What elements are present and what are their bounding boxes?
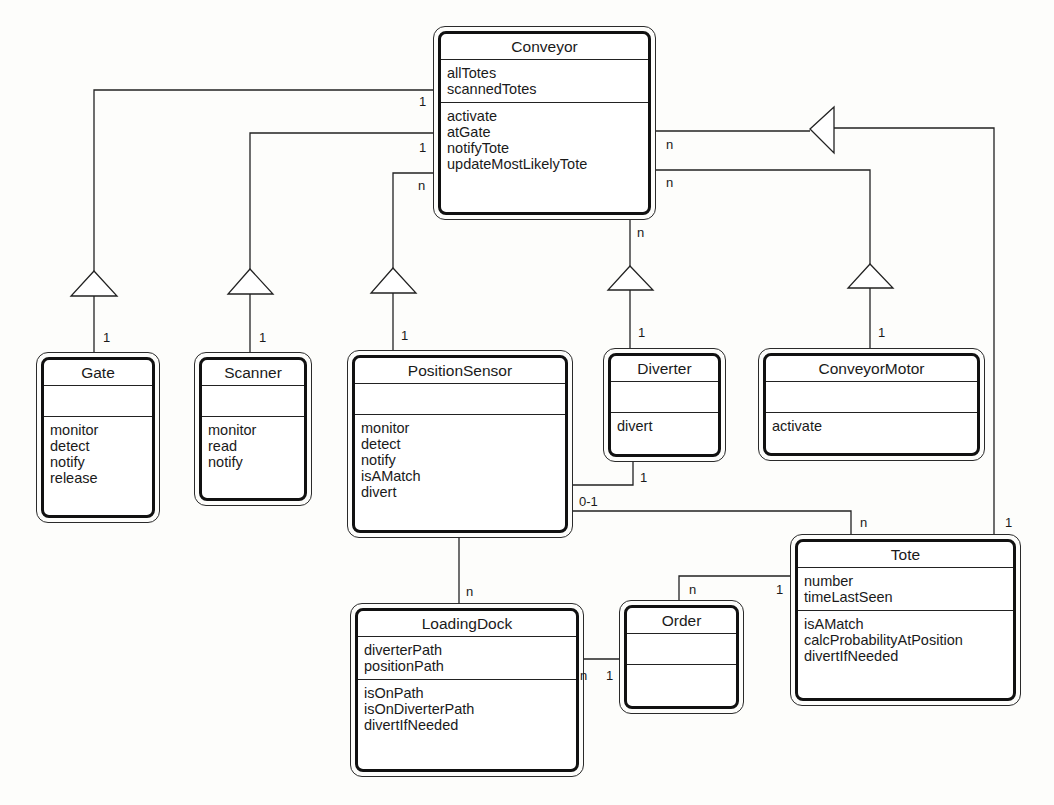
class-operations: isAMatch calcProbabilityAtPosition diver…: [798, 611, 1013, 698]
class-attributes: [766, 382, 977, 413]
multiplicity-label: n: [580, 668, 587, 683]
operation: divertIfNeeded: [364, 717, 570, 733]
aggregation-triangle-icon: [71, 271, 117, 296]
attribute: number: [804, 573, 1007, 589]
operation: release: [50, 470, 146, 486]
multiplicity-label: n: [666, 175, 673, 190]
conveyor-motor-connector: [656, 170, 870, 264]
operation: activate: [772, 418, 971, 434]
class-tote[interactable]: Tote number timeLastSeen isAMatch calcPr…: [790, 534, 1021, 706]
conveyor-positionsensor-connector: [393, 173, 433, 269]
operation: detect: [361, 436, 559, 452]
class-name: Scanner: [202, 360, 304, 386]
class-attributes: [611, 382, 718, 413]
class-attributes: allTotes scannedTotes: [441, 60, 648, 103]
operation: monitor: [208, 422, 298, 438]
attribute: scannedTotes: [447, 81, 642, 97]
multiplicity-label: 1: [103, 330, 110, 345]
aggregation-triangle-icon: [608, 266, 653, 290]
conveyor-gate-connector: [94, 90, 433, 273]
class-attributes: number timeLastSeen: [798, 568, 1013, 611]
class-operations: isOnPath isOnDiverterPath divertIfNeeded: [358, 680, 576, 769]
operation: calcProbabilityAtPosition: [804, 632, 1007, 648]
multiplicity-label: 1: [878, 325, 885, 340]
multiplicity-label: 1: [640, 470, 647, 485]
operation: isOnDiverterPath: [364, 701, 570, 717]
operation: monitor: [361, 420, 559, 436]
aggregation-triangle-icon: [371, 268, 416, 293]
multiplicity-label: 1: [419, 94, 426, 109]
class-operations: activate: [766, 413, 977, 453]
class-name: Conveyor: [441, 34, 648, 60]
class-attributes: [627, 634, 736, 665]
aggregation-triangle-icon: [810, 107, 834, 153]
operation: detect: [50, 438, 146, 454]
attribute: positionPath: [364, 658, 570, 674]
multiplicity-label: n: [418, 178, 425, 193]
multiplicity-label: 1: [776, 582, 783, 597]
operation: notify: [208, 454, 298, 470]
class-name: Diverter: [611, 356, 718, 382]
class-operations: divert: [611, 413, 718, 454]
aggregation-triangle-icon: [228, 269, 273, 294]
class-name: PositionSensor: [355, 358, 565, 384]
operation: isAMatch: [361, 468, 559, 484]
class-name: Gate: [44, 360, 152, 386]
positionsensor-tote-connector: [573, 511, 851, 534]
class-conveyormotor[interactable]: ConveyorMotor activate: [758, 348, 985, 461]
class-attributes: [355, 384, 565, 415]
operation: notify: [50, 454, 146, 470]
class-name: LoadingDock: [358, 611, 576, 637]
multiplicity-label: 1: [419, 140, 426, 155]
class-name: ConveyorMotor: [766, 356, 977, 382]
multiplicity-label: 0-1: [579, 494, 598, 509]
operation: divert: [617, 418, 712, 434]
multiplicity-label: 1: [259, 330, 266, 345]
conveyor-scanner-connector: [250, 133, 433, 270]
attribute: diverterPath: [364, 642, 570, 658]
operation: divert: [361, 484, 559, 500]
operation: isOnPath: [364, 685, 570, 701]
class-gate[interactable]: Gate monitor detect notify release: [36, 352, 160, 523]
multiplicity-label: n: [666, 137, 673, 152]
class-operations: monitor read notify: [202, 417, 304, 498]
aggregation-triangle-icon: [848, 264, 893, 288]
operation: notify: [361, 452, 559, 468]
class-diverter[interactable]: Diverter divert: [603, 348, 726, 462]
class-name: Tote: [798, 542, 1013, 568]
class-operations: [627, 665, 736, 706]
multiplicity-label: 1: [606, 668, 613, 683]
operation: updateMostLikelyTote: [447, 156, 642, 172]
class-attributes: [44, 386, 152, 417]
multiplicity-label: n: [466, 584, 473, 599]
class-operations: monitor detect notify isAMatch divert: [355, 415, 565, 530]
class-conveyor[interactable]: Conveyor allTotes scannedTotes activate …: [433, 26, 656, 220]
positionsensor-diverter-connector: [573, 462, 633, 485]
class-attributes: [202, 386, 304, 417]
class-operations: activate atGate notifyTote updateMostLik…: [441, 103, 648, 212]
uml-class-diagram: Conveyor allTotes scannedTotes activate …: [0, 0, 1054, 805]
multiplicity-label: 1: [401, 328, 408, 343]
attribute: allTotes: [447, 65, 642, 81]
operation: isAMatch: [804, 616, 1007, 632]
class-order[interactable]: Order: [619, 600, 744, 714]
class-positionsensor[interactable]: PositionSensor monitor detect notify isA…: [347, 350, 573, 538]
multiplicity-label: 1: [1005, 515, 1012, 530]
operation: notifyTote: [447, 140, 642, 156]
multiplicity-label: n: [689, 582, 696, 597]
multiplicity-label: 1: [638, 325, 645, 340]
multiplicity-label: n: [860, 515, 867, 530]
operation: activate: [447, 108, 642, 124]
operation: divertIfNeeded: [804, 648, 1007, 664]
attribute: timeLastSeen: [804, 589, 1007, 605]
operation: read: [208, 438, 298, 454]
class-scanner[interactable]: Scanner monitor read notify: [194, 352, 312, 506]
operation: atGate: [447, 124, 642, 140]
operation: monitor: [50, 422, 146, 438]
class-operations: monitor detect notify release: [44, 417, 152, 515]
class-attributes: diverterPath positionPath: [358, 637, 576, 680]
class-name: Order: [627, 608, 736, 634]
class-loadingdock[interactable]: LoadingDock diverterPath positionPath is…: [350, 603, 584, 777]
multiplicity-label: n: [637, 225, 644, 240]
